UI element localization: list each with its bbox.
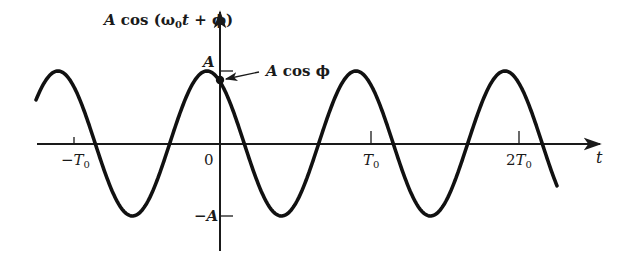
2T0-coef: 2: [506, 151, 516, 169]
intercept-point: [216, 76, 224, 84]
y-label-t: t: [182, 11, 189, 29]
neg-sign: −: [61, 151, 74, 169]
y-label-omega-sub: 0: [175, 19, 182, 30]
sinusoid-diagram: A cos (ω0t + ϕ) A −A A cos ϕ −T0 0 T0 2T…: [0, 0, 631, 267]
T0-sub: 0: [373, 159, 379, 170]
y-label-omega: ω: [161, 11, 175, 29]
y-label-A: A: [102, 11, 116, 29]
annotation-label: A cos ϕ: [264, 62, 330, 80]
label-zero: 0: [204, 151, 214, 169]
annotation-cos-phi: cos ϕ: [278, 62, 330, 80]
neg-T-sub: 0: [84, 159, 90, 170]
label-T0: T0: [363, 151, 379, 170]
diagram-canvas: A cos (ω0t + ϕ) A −A A cos ϕ −T0 0 T0 2T…: [0, 0, 631, 267]
2T0-sub: 0: [526, 159, 532, 170]
label-neg-A: −A: [194, 207, 218, 225]
label-neg-T0: −T0: [61, 151, 90, 170]
y-axis-label: A cos (ω0t + ϕ): [102, 11, 233, 30]
y-label-rest: + ϕ): [189, 11, 233, 29]
y-label-cos: cos (: [116, 11, 161, 29]
annotation-arrow: [226, 72, 259, 79]
t-axis-label: t: [596, 148, 603, 167]
label-2T0: 2T0: [506, 151, 532, 170]
label-A: A: [201, 53, 215, 71]
annotation-A: A: [264, 62, 278, 80]
